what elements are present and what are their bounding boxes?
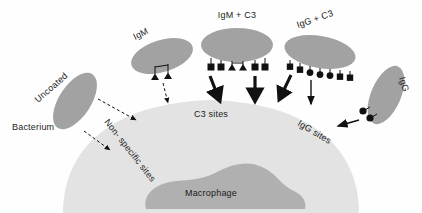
iggc3-marker-square-3 xyxy=(337,74,343,80)
bacterium-igm-c3: IgM + C3 xyxy=(201,10,273,99)
c3-marker-triangle-2 xyxy=(239,64,247,71)
bacterium-generic-label: Bacterium xyxy=(12,122,54,132)
diagram-canvas: Macrophage Non- specific sites C3 sites … xyxy=(0,0,422,213)
bacterium-igg-c3-label: IgG + C3 xyxy=(295,8,334,30)
c3-sites-label: C3 sites xyxy=(194,109,228,119)
bacterium-igg-c3-body xyxy=(282,30,358,74)
c3-marker-triangle-1 xyxy=(228,64,236,71)
bacterium-igm-c3-label: IgM + C3 xyxy=(218,10,256,20)
igm-marker-triangle-1 xyxy=(151,74,159,81)
igg-marker-circle-1 xyxy=(359,107,366,114)
iggc3-marker-square-2 xyxy=(297,67,303,73)
bacterium-igm-c3-body xyxy=(201,28,273,62)
arrow-igg-c3-thick xyxy=(280,75,291,98)
bacterium-igg: IgG xyxy=(338,61,412,130)
c3-marker-square-2 xyxy=(218,64,225,71)
c3-marker-square-4 xyxy=(262,64,269,71)
arrow-igm-to-nonspecific xyxy=(163,83,168,103)
igm-marker-triangle-2 xyxy=(164,73,172,80)
iggc3-marker-circle-3 xyxy=(327,72,334,79)
arrow-igm-c3-left xyxy=(210,76,219,99)
iggc3-marker-square-1 xyxy=(287,64,293,70)
igg-marker-circle-2 xyxy=(366,114,373,121)
bacterium-igg-c3: IgG + C3 xyxy=(280,8,358,104)
c3-marker-square-3 xyxy=(252,64,259,71)
bacterium-igm: IgM xyxy=(127,26,198,103)
iggc3-marker-circle-2 xyxy=(317,71,324,78)
opsonization-diagram: Macrophage Non- specific sites C3 sites … xyxy=(0,0,422,213)
arrow-igg-to-igg-sites xyxy=(338,120,359,126)
macrophage-label: Macrophage xyxy=(185,188,237,198)
bacterium-igm-label: IgM xyxy=(131,26,149,42)
iggc3-marker-square-4 xyxy=(347,75,353,81)
c3-marker-square-1 xyxy=(208,64,215,71)
iggc3-marker-circle-1 xyxy=(307,69,314,76)
